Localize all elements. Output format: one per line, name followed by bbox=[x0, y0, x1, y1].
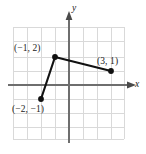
point-label-neg1-2: (−1, 2) bbox=[14, 43, 41, 53]
segment-p3-p1 bbox=[41, 57, 55, 99]
axis-lines bbox=[8, 16, 131, 143]
plot-canvas bbox=[0, 0, 146, 154]
point-label-neg2-neg1: (−2, −1) bbox=[12, 104, 44, 114]
point-label-3-1: (3, 1) bbox=[97, 56, 118, 66]
data-point-3-1 bbox=[108, 68, 114, 74]
x-axis-label: x bbox=[135, 79, 139, 89]
coordinate-plane-figure: (−1, 2) (3, 1) (−2, −1) y x bbox=[0, 0, 146, 154]
data-point-neg1-2 bbox=[52, 54, 58, 60]
data-point-neg2-neg1 bbox=[38, 96, 44, 102]
y-axis-label: y bbox=[72, 3, 76, 13]
